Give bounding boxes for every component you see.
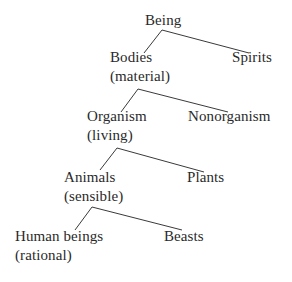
node-being: Being: [145, 11, 181, 30]
node-bodies-label: Bodies: [110, 48, 170, 67]
node-organism: Organism (living): [87, 107, 147, 145]
node-organism-qualifier: (living): [87, 126, 147, 145]
node-bodies: Bodies (material): [110, 48, 170, 86]
node-plants: Plants: [187, 168, 224, 187]
edge-organism-animals: [100, 148, 117, 170]
node-human-beings: Human beings (rational): [15, 227, 103, 265]
node-animals-label: Animals: [64, 168, 123, 187]
node-beasts-label: Beasts: [164, 228, 204, 244]
node-beasts: Beasts: [164, 227, 204, 246]
node-nonorganism-label: Nonorganism: [188, 108, 271, 124]
node-animals-qualifier: (sensible): [64, 187, 123, 206]
node-bodies-qualifier: (material): [110, 67, 170, 86]
node-plants-label: Plants: [187, 169, 224, 185]
porphyrian-tree-diagram: Being Bodies (material) Spirits Organism…: [0, 0, 292, 282]
node-spirits-label: Spirits: [232, 49, 272, 65]
node-nonorganism: Nonorganism: [188, 107, 271, 126]
node-organism-label: Organism: [87, 107, 147, 126]
node-animals: Animals (sensible): [64, 168, 123, 206]
node-being-label: Being: [145, 12, 181, 28]
node-human-beings-label: Human beings: [15, 227, 103, 246]
node-human-beings-qualifier: (rational): [15, 246, 103, 265]
node-spirits: Spirits: [232, 48, 272, 67]
